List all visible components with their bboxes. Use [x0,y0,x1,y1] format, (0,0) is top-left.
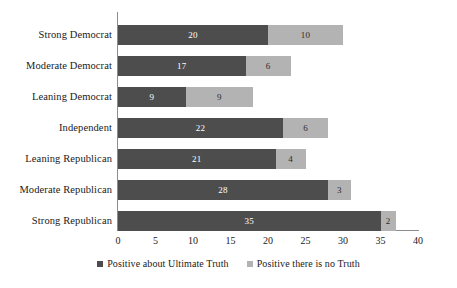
bar-value-label: 21 [192,155,201,164]
x-tick-label: 25 [301,236,311,246]
bar-segment-series-b: 10 [268,25,343,45]
stacked-bar-chart: Strong DemocratModerate DemocratLeaning … [0,0,457,288]
x-tick-label: 10 [188,236,198,246]
chart-legend: Positive about Ultimate TruthPositive th… [0,259,457,269]
bar-value-label: 6 [303,124,308,133]
bar-segment-series-b: 4 [276,149,306,169]
legend-label: Positive there is no Truth [257,259,360,269]
bar-segment-series-a: 28 [118,180,328,200]
category-label: Strong Democrat [38,30,112,41]
bar-segment-series-b: 6 [283,118,328,138]
bar-value-label: 6 [266,62,271,71]
legend-item[interactable]: Positive about Ultimate Truth [97,259,229,269]
plot-area: 201017699226214283352 [118,12,418,230]
legend-label: Positive about Ultimate Truth [107,259,229,269]
bar-row: 283 [118,180,351,200]
bar-segment-series-a: 21 [118,149,276,169]
bar-value-label: 9 [149,93,154,102]
bar-value-label: 10 [301,31,310,40]
bar-row: 214 [118,149,306,169]
bar-segment-series-a: 20 [118,25,268,45]
bar-row: 2010 [118,25,343,45]
bar-value-label: 22 [196,124,205,133]
legend-swatch-series-a [97,261,103,267]
bar-value-label: 4 [288,155,293,164]
category-label: Leaning Democrat [32,92,112,103]
bar-segment-series-b: 9 [186,87,254,107]
bar-value-label: 28 [218,186,227,195]
bar-segment-series-b: 6 [246,56,291,76]
bar-segment-series-b: 3 [328,180,351,200]
bar-segment-series-a: 9 [118,87,186,107]
bar-value-label: 17 [177,62,186,71]
bar-value-label: 35 [245,217,254,226]
x-tick-label: 35 [376,236,386,246]
bar-segment-series-b: 2 [381,211,396,231]
legend-item[interactable]: Positive there is no Truth [247,259,360,269]
bar-value-label: 2 [386,217,391,226]
x-tick-label: 40 [413,236,423,246]
category-label: Independent [59,123,112,134]
category-label: Strong Republican [32,216,112,227]
bar-row: 99 [118,87,253,107]
bar-value-label: 20 [188,31,197,40]
x-tick-label: 15 [226,236,236,246]
legend-swatch-series-b [247,261,253,267]
x-tick-label: 30 [338,236,348,246]
bar-row: 176 [118,56,291,76]
bar-row: 226 [118,118,328,138]
x-tick-label: 5 [153,236,158,246]
category-label: Leaning Republican [25,154,112,165]
category-label: Moderate Republican [19,185,112,196]
bar-segment-series-a: 35 [118,211,381,231]
bar-segment-series-a: 22 [118,118,283,138]
category-label: Moderate Democrat [26,61,112,72]
bar-value-label: 9 [217,93,222,102]
bar-value-label: 3 [337,186,342,195]
x-tick-label: 0 [116,236,121,246]
x-tick-label: 20 [263,236,273,246]
bar-segment-series-a: 17 [118,56,246,76]
bar-row: 352 [118,211,396,231]
